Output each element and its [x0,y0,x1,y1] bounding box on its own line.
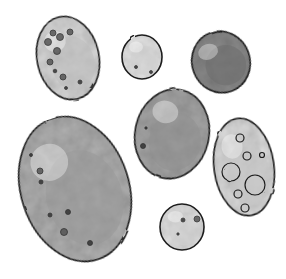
speckle-mark [135,66,138,69]
ring-mark [243,152,251,160]
speckle-mark [30,154,33,157]
speckle-mark [67,29,73,35]
speckle-mark [48,213,52,217]
speckle-mark [141,144,146,149]
stone-small-circle-bottom [160,204,204,250]
speckle-mark [45,39,52,46]
stone-large-oval-bottom-left [1,102,149,276]
speckle-mark [50,30,56,36]
stone-speckled-oval-top-left [29,10,107,105]
ring-mark [234,190,242,198]
speckle-mark [65,87,68,90]
stones-layer [1,10,281,276]
pebbles-illustration [0,0,286,279]
speckle-mark [177,233,179,235]
ring-mark [241,204,249,212]
ring-mark [236,134,244,142]
speckle-mark [47,59,53,65]
speckle-mark [66,210,71,215]
ring-mark [222,163,240,181]
speckle-mark [37,168,43,174]
speckle-mark [61,229,68,236]
speckle-mark [181,218,185,222]
speckle-mark [39,180,43,184]
speckle-mark [145,127,147,129]
speckle-mark [88,241,93,246]
speckle-mark [57,34,64,41]
speckle-mark [54,48,61,55]
speckle-mark [53,69,57,73]
speckle-mark [78,80,82,84]
speckle-mark [194,216,200,222]
speckle-mark [150,71,153,74]
ring-mark [260,153,265,158]
stone-mid-gray-oval [126,82,217,185]
ring-mark [245,175,265,195]
stone-small-pale-circle [122,35,162,79]
speckle-mark [60,74,66,80]
stone-dark-oval-top-right [183,23,259,101]
